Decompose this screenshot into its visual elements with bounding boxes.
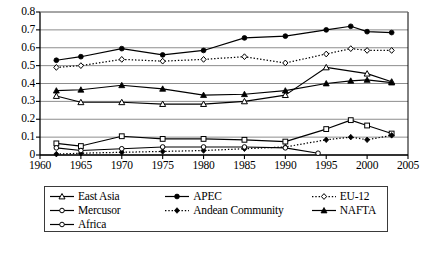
data-point <box>283 139 288 144</box>
data-point <box>54 146 59 151</box>
data-point <box>324 137 329 143</box>
data-point <box>283 34 288 39</box>
series-nafta <box>53 77 394 98</box>
x-axis-tick-label: 1990 <box>274 159 296 171</box>
data-point <box>365 123 370 128</box>
legend-label: EU-12 <box>340 190 370 202</box>
data-point <box>389 30 394 35</box>
y-axis-tick-label: 0.8 <box>21 6 35 17</box>
series-africa <box>54 145 320 156</box>
legend-row: Africa <box>49 217 383 231</box>
data-point <box>365 29 370 34</box>
data-point <box>119 46 124 51</box>
series-line <box>56 80 391 95</box>
data-point <box>242 137 247 142</box>
series-line <box>56 26 391 60</box>
data-point <box>119 134 124 139</box>
x-axis-tick-labels: 1960196519701975198019851990199520002005 <box>0 155 432 177</box>
x-axis-tick-label: 2005 <box>397 159 419 171</box>
data-point <box>348 46 353 52</box>
legend-item-andean-community[interactable]: Andean Community <box>164 204 310 216</box>
data-point <box>78 63 83 69</box>
figure: 00.10.20.30.40.50.60.70.8 19601965197019… <box>0 0 432 258</box>
data-point <box>78 54 83 59</box>
series-mercusor <box>54 118 394 149</box>
legend-marker-filled-diamond-icon <box>164 205 190 216</box>
y-axis-tick-label: 0.4 <box>21 78 35 89</box>
legend-marker-open-triangle-icon <box>49 191 75 202</box>
x-axis-tick-label: 1960 <box>29 159 51 171</box>
data-point <box>348 24 353 29</box>
data-point <box>389 48 394 54</box>
data-point <box>79 148 84 153</box>
legend-label: Andean Community <box>193 204 283 216</box>
x-axis-tick-label: 1995 <box>315 159 337 171</box>
line-chart <box>0 0 432 176</box>
series-line <box>56 120 391 146</box>
legend-label: East Asia <box>78 190 119 202</box>
series-line <box>56 135 391 154</box>
legend-item-africa[interactable]: Africa <box>49 218 167 230</box>
data-point <box>160 58 165 64</box>
legend-row: MercusorAndean CommunityNAFTA <box>49 203 383 217</box>
data-point <box>60 208 65 213</box>
legend-item-apec[interactable]: APEC <box>164 190 310 202</box>
legend-item-mercusor[interactable]: Mercusor <box>49 204 164 216</box>
data-point <box>175 194 180 199</box>
x-axis-tick-label: 1975 <box>152 159 174 171</box>
data-point <box>60 222 65 227</box>
data-point <box>119 56 124 62</box>
legend-row: East AsiaAPECEU-12 <box>49 189 383 203</box>
legend-label: APEC <box>193 190 222 202</box>
legend-item-nafta[interactable]: NAFTA <box>311 204 383 216</box>
data-point <box>201 137 206 142</box>
data-point <box>348 134 353 140</box>
x-axis-tick-label: 1965 <box>70 159 92 171</box>
data-point <box>242 145 247 150</box>
y-axis-tick-labels: 00.10.20.30.40.50.60.70.8 <box>0 0 38 176</box>
legend-label: Africa <box>78 218 106 230</box>
x-axis-tick-label: 1985 <box>233 159 255 171</box>
legend-marker-open-circle-icon <box>49 205 75 216</box>
series-andean-community <box>54 133 394 157</box>
chart-plot-area: 00.10.20.30.40.50.60.70.8 19601965197019… <box>0 0 432 176</box>
data-point <box>201 56 206 62</box>
data-point <box>348 118 353 123</box>
data-point <box>201 48 206 53</box>
data-point <box>324 51 329 57</box>
legend-marker-open-diamond-icon <box>311 191 337 202</box>
legend-item-eu-12[interactable]: EU-12 <box>311 190 383 202</box>
legend-item-east-asia[interactable]: East Asia <box>49 190 164 202</box>
x-axis-tick-label: 1980 <box>192 159 214 171</box>
legend-marker-filled-triangle-icon <box>311 205 337 216</box>
series-eu-12 <box>54 46 394 71</box>
y-axis-tick-label: 0.5 <box>21 60 35 71</box>
data-point <box>321 193 326 199</box>
y-axis-tick-label: 0.6 <box>21 42 35 53</box>
data-point <box>242 54 247 60</box>
x-axis-tick-label: 1970 <box>111 159 133 171</box>
data-point <box>283 60 288 66</box>
data-point <box>365 137 370 143</box>
y-axis-tick-label: 0.7 <box>21 24 35 35</box>
data-point <box>119 146 124 151</box>
series-line <box>56 67 391 104</box>
data-point <box>160 137 165 142</box>
series-line <box>56 147 318 153</box>
data-point <box>201 145 206 150</box>
data-point <box>54 58 59 63</box>
y-axis-tick-label: 0.2 <box>21 113 35 124</box>
data-point <box>324 127 329 132</box>
data-point <box>365 48 370 54</box>
data-point <box>283 146 288 151</box>
y-axis-tick-label: 0.3 <box>21 95 35 106</box>
legend-marker-open-circle-icon <box>49 219 75 230</box>
data-point <box>53 93 59 98</box>
x-axis-tick-label: 2000 <box>356 159 378 171</box>
series-east-asia <box>53 64 394 106</box>
legend-label: NAFTA <box>340 204 376 216</box>
data-point <box>160 53 165 58</box>
data-point <box>175 207 180 213</box>
legend-marker-filled-circle-icon <box>164 191 190 202</box>
data-point <box>324 27 329 32</box>
